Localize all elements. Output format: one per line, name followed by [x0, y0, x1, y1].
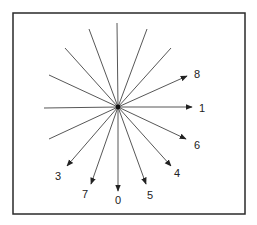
arrow-ray-8 — [118, 76, 187, 107]
direction-label-8: 8 — [194, 68, 200, 80]
plain-ray — [44, 107, 118, 108]
plain-ray — [118, 29, 147, 107]
direction-label-6: 6 — [194, 139, 200, 151]
plain-rays-group — [44, 23, 171, 139]
plain-ray — [49, 107, 118, 139]
radial-direction-diagram: 81645073 — [0, 0, 257, 225]
plain-ray — [117, 23, 118, 107]
arrow-ray-4 — [118, 107, 171, 166]
arrow-ray-3 — [67, 107, 118, 166]
direction-label-5: 5 — [147, 189, 153, 201]
plain-ray — [118, 48, 171, 107]
direction-label-1: 1 — [199, 102, 205, 114]
center-point — [116, 105, 121, 110]
diagram-frame — [13, 13, 245, 214]
direction-label-7: 7 — [82, 188, 88, 200]
direction-label-0: 0 — [115, 194, 121, 206]
direction-label-3: 3 — [55, 170, 61, 182]
arrow-ray-7 — [91, 107, 118, 184]
plain-ray — [65, 48, 118, 107]
direction-label-4: 4 — [174, 167, 180, 179]
